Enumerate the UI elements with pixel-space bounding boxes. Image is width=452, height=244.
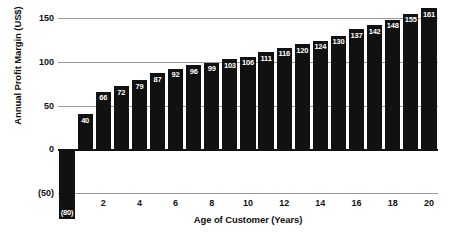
bar-slot[interactable]: 155 — [402, 18, 420, 193]
bar-slot[interactable]: 161 — [420, 18, 438, 193]
bar-slot[interactable]: 92 — [167, 18, 185, 193]
bar[interactable]: 116 — [277, 48, 292, 150]
bar-slot[interactable]: 142 — [366, 18, 384, 193]
bar-slot[interactable]: 111 — [257, 18, 275, 193]
x-tick-label: 20 — [424, 198, 434, 208]
bar-slot[interactable]: (80) — [58, 18, 76, 193]
bar[interactable]: 155 — [403, 14, 418, 150]
bar-value-label: 72 — [117, 89, 125, 97]
bar-value-label: 161 — [423, 11, 435, 19]
bar-slot[interactable]: 103 — [221, 18, 239, 193]
x-tick-label: 4 — [137, 198, 142, 208]
bar[interactable]: 124 — [313, 41, 328, 150]
bar[interactable]: 161 — [421, 8, 436, 149]
x-tick-label: 16 — [352, 198, 362, 208]
bar-value-label: 142 — [369, 28, 381, 36]
x-tick-label: 2 — [101, 198, 106, 208]
bar-value-label: 92 — [172, 71, 180, 79]
x-axis-tick-labels: 02468101214161820 — [58, 198, 438, 212]
bar-slot[interactable]: 130 — [329, 18, 347, 193]
bar[interactable]: 130 — [331, 36, 346, 150]
bar-slot[interactable]: 79 — [130, 18, 148, 193]
x-tick-label: 12 — [279, 198, 289, 208]
plot-area: (80)406672798792969910310611111612012413… — [58, 18, 438, 193]
x-tick-label: 0 — [65, 198, 70, 208]
bar-slot[interactable]: 124 — [311, 18, 329, 193]
x-tick-label: 14 — [315, 198, 325, 208]
bar-series: (80)406672798792969910310611111612012413… — [58, 18, 438, 193]
bar-slot[interactable]: 66 — [94, 18, 112, 193]
y-tick-label: 150 — [14, 13, 54, 23]
bar-value-label: 40 — [81, 117, 89, 125]
bar-slot[interactable]: 148 — [384, 18, 402, 193]
bar[interactable]: 92 — [168, 69, 183, 150]
gridline — [58, 193, 438, 194]
bar-value-label: 79 — [135, 83, 143, 91]
bar-value-label: 116 — [278, 50, 290, 58]
bar-value-label: 106 — [242, 59, 254, 67]
bar-slot[interactable]: 87 — [148, 18, 166, 193]
bar[interactable]: 96 — [186, 65, 201, 149]
x-axis-title: Age of Customer (Years) — [58, 214, 438, 225]
bar-slot[interactable]: 40 — [76, 18, 94, 193]
bar-slot[interactable]: 116 — [275, 18, 293, 193]
bar[interactable]: 120 — [295, 44, 310, 149]
bar[interactable]: 66 — [96, 92, 111, 150]
x-tick-label: 10 — [243, 198, 253, 208]
bar[interactable]: 79 — [132, 80, 147, 149]
bar-value-label: 124 — [314, 43, 326, 51]
y-tick-label: (50) — [14, 188, 54, 198]
bar-value-label: 148 — [387, 22, 399, 30]
bar[interactable]: 137 — [349, 29, 364, 149]
bar-slot[interactable]: 137 — [348, 18, 366, 193]
bar-slot[interactable]: 106 — [239, 18, 257, 193]
bar-value-label: 87 — [154, 76, 162, 84]
bar-chart-figure: Annual Profit Margin (US$) 150100500(50)… — [0, 0, 452, 244]
y-axis-tick-labels: 150100500(50) — [14, 0, 54, 244]
bar-value-label: 155 — [405, 16, 417, 24]
bar-slot[interactable]: 72 — [112, 18, 130, 193]
x-tick-label: 18 — [388, 198, 398, 208]
bar-value-label: 111 — [261, 55, 272, 63]
bar-value-label: 120 — [296, 47, 308, 55]
bar[interactable]: 103 — [222, 59, 237, 149]
bar[interactable]: 99 — [204, 63, 219, 150]
bar-value-label: 130 — [332, 38, 344, 46]
bar[interactable]: 111 — [258, 52, 273, 149]
bar[interactable]: 72 — [114, 86, 129, 149]
bar[interactable]: 142 — [367, 25, 382, 149]
bar[interactable]: 87 — [150, 73, 165, 149]
bar[interactable]: 40 — [78, 114, 93, 149]
y-tick-label: 50 — [14, 101, 54, 111]
y-tick-label: 0 — [14, 144, 54, 154]
bar-value-label: 99 — [208, 65, 216, 73]
y-tick-label: 100 — [14, 57, 54, 67]
bar-value-label: 137 — [351, 32, 363, 40]
bar-slot[interactable]: 120 — [293, 18, 311, 193]
bar[interactable]: 106 — [240, 57, 255, 150]
x-tick-label: 8 — [209, 198, 214, 208]
bar-value-label: 96 — [190, 68, 198, 76]
bar-slot[interactable]: 96 — [185, 18, 203, 193]
bar[interactable]: 148 — [385, 20, 400, 150]
bar-value-label: 103 — [224, 62, 236, 70]
x-tick-label: 6 — [173, 198, 178, 208]
bar-value-label: 66 — [99, 94, 107, 102]
bar-slot[interactable]: 99 — [203, 18, 221, 193]
